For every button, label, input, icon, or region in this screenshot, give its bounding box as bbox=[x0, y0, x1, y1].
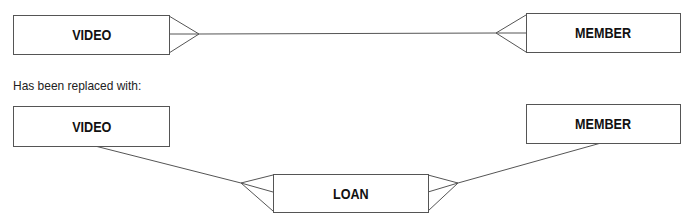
entity-label: LOAN bbox=[333, 186, 369, 202]
entity-label: MEMBER bbox=[575, 116, 631, 132]
entity-member-before: MEMBER bbox=[526, 13, 681, 53]
entity-label: MEMBER bbox=[575, 25, 631, 41]
member-loan-relationship bbox=[428, 143, 601, 211]
entity-label: VIDEO bbox=[72, 27, 111, 43]
entity-label: VIDEO bbox=[72, 119, 111, 135]
entity-video-before: VIDEO bbox=[13, 15, 170, 55]
entity-loan: LOAN bbox=[273, 174, 429, 213]
video-loan-relationship bbox=[95, 146, 273, 211]
many-to-many-relationship bbox=[169, 15, 526, 53]
caption: Has been replaced with: bbox=[13, 78, 141, 93]
entity-video-after: VIDEO bbox=[13, 106, 170, 147]
er-diagram: VIDEO MEMBER Has been replaced with: VID… bbox=[0, 0, 690, 223]
entity-member-after: MEMBER bbox=[526, 104, 681, 144]
